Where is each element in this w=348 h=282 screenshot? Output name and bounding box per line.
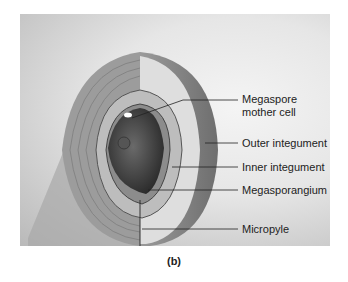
label-line: Megaspore	[242, 93, 297, 106]
figure-caption: (b)	[0, 255, 348, 267]
label-outer-integument: Outer integument	[242, 137, 327, 150]
label-micropyle: Micropyle	[242, 223, 289, 236]
label-inner-integument: Inner integument	[242, 161, 325, 174]
label-megasporangium: Megasporangium	[242, 184, 327, 197]
label-megaspore-mother-cell: Megaspore mother cell	[242, 93, 297, 119]
label-line: mother cell	[242, 106, 297, 119]
ovule-figure: Megaspore mother cell Outer integument I…	[0, 0, 348, 282]
